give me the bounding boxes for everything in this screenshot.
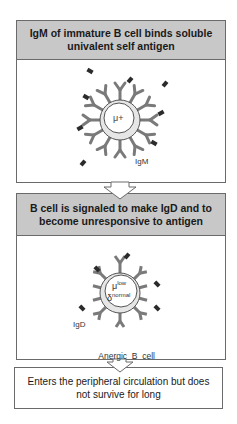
mu-sup-text: low bbox=[117, 280, 126, 286]
igm-label: IgM bbox=[135, 157, 148, 166]
anergic-cell-label-text: Anergic B cell bbox=[98, 351, 155, 361]
igd-label: IgD bbox=[73, 320, 85, 329]
cell2-mu-marker: μlow bbox=[112, 280, 126, 291]
cell1-marker-text: μ+ bbox=[113, 113, 123, 123]
down-arrow-icon bbox=[104, 182, 136, 199]
delta-sup-text: normal bbox=[112, 292, 130, 298]
igd-label-text: IgD bbox=[73, 320, 85, 329]
cell1-marker: μ+ bbox=[113, 113, 123, 123]
igm-label-text: IgM bbox=[135, 157, 148, 166]
anergic-cell-label: Anergic B cell bbox=[94, 341, 155, 361]
cell2-delta-marker: δnormal bbox=[107, 292, 130, 303]
